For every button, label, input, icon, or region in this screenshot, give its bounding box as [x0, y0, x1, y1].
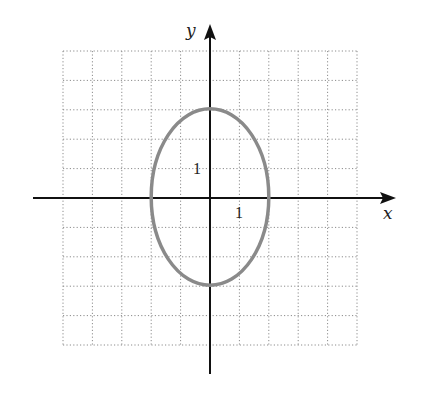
x-tick-label-1: 1 — [235, 204, 243, 221]
x-axis-label: x — [383, 203, 393, 223]
ellipse-graph: x y 1 1 — [0, 0, 421, 401]
y-tick-label-1: 1 — [193, 160, 201, 177]
y-axis-label: y — [185, 20, 196, 40]
